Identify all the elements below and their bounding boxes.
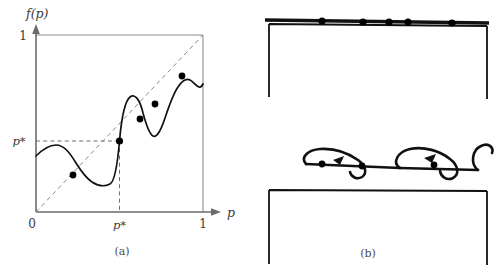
- figure-root: f(p) p 1 p* 0 p* 1 (a): [0, 0, 499, 280]
- panel-b-bottom-point-2: [359, 163, 366, 170]
- panel-a-fixed-point-3: [137, 116, 144, 123]
- panel-a: f(p) p 1 p* 0 p* 1 (a): [12, 6, 235, 258]
- panel-b-top-box: [269, 24, 487, 99]
- panel-a-fixed-point-2: [116, 137, 123, 144]
- panel-b-top-point-5: [448, 19, 455, 26]
- panel-b-top-point-2: [359, 18, 366, 25]
- panel-a-y-axis-label: f(p): [25, 6, 49, 21]
- figure-svg: f(p) p 1 p* 0 p* 1 (a): [0, 0, 499, 280]
- panel-a-fixed-point-1: [70, 172, 77, 179]
- panel-a-xtick-pstar: p*: [113, 218, 126, 232]
- panel-a-caption: (a): [114, 245, 129, 258]
- panel-b-flow-segment-2: [400, 168, 478, 170]
- panel-b-bottom-point-3: [431, 162, 438, 169]
- panel-b-top-point-4: [404, 18, 411, 25]
- panel-b-flow-arrow-1: [333, 156, 344, 165]
- panel-b-flow-loop-2: [396, 148, 457, 179]
- panel-a-ytick-pstar: p*: [12, 134, 25, 148]
- panel-a-curve-f: [36, 79, 203, 185]
- panel-a-xtick-one: 1: [199, 217, 207, 231]
- panel-a-xtick-zero: 0: [28, 217, 36, 231]
- panel-a-y-axis-arrow: [32, 24, 40, 34]
- panel-a-x-axis-label: p: [227, 205, 235, 220]
- panel-b-caption: (b): [360, 247, 376, 260]
- panel-b-top-point-3: [385, 18, 392, 25]
- panel-b-bottom-point-1: [319, 161, 326, 168]
- panel-b-flow-loop-3: [473, 145, 492, 170]
- panel-a-x-axis-arrow: [211, 208, 221, 216]
- panel-a-ytick-one: 1: [19, 29, 27, 43]
- panel-a-fixed-point-5: [179, 73, 186, 80]
- panel-b: (b): [265, 17, 492, 265]
- panel-a-fixed-point-4: [152, 101, 159, 108]
- panel-b-bottom-box: [269, 190, 487, 265]
- panel-b-top-point-1: [318, 17, 325, 24]
